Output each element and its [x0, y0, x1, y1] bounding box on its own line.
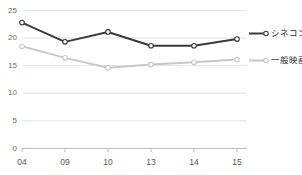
legend: シネコン 一般映画館 — [249, 28, 302, 65]
data-point — [192, 43, 197, 48]
x-label-09: 09 — [60, 157, 70, 167]
legend-marker-cinecon — [264, 31, 268, 35]
data-point — [235, 57, 240, 62]
data-point — [20, 44, 25, 49]
data-point — [20, 20, 25, 25]
legend-label-cinecon: シネコン — [271, 28, 302, 38]
series-general-theater — [20, 44, 240, 70]
data-point — [149, 62, 154, 67]
legend-item-general-theater: 一般映画館 — [249, 55, 302, 65]
x-label-10: 10 — [103, 157, 113, 167]
legend-item-cinecon: シネコン — [249, 28, 302, 38]
series-cinecon — [20, 20, 240, 48]
y-axis-labels: 25 20 15 10 5 0 — [8, 6, 17, 153]
x-label-14: 14 — [189, 157, 199, 167]
x-label-13: 13 — [146, 157, 156, 167]
data-point — [63, 56, 68, 61]
x-axis-labels: 04 09 10 13 14 15 — [17, 157, 242, 167]
line-chart: 25 20 15 10 5 0 04 09 10 13 14 15 シネコン — [0, 0, 302, 175]
x-label-04: 04 — [17, 157, 27, 167]
data-point — [106, 30, 111, 35]
y-label-0: 0 — [13, 144, 18, 153]
x-label-15: 15 — [232, 157, 242, 167]
y-label-25: 25 — [8, 6, 17, 15]
series-line-1 — [22, 46, 237, 68]
data-point — [63, 40, 68, 45]
data-point — [192, 60, 197, 65]
data-point — [235, 37, 240, 42]
x-tick-marks — [22, 148, 237, 152]
y-label-5: 5 — [13, 116, 18, 125]
legend-label-general-theater: 一般映画館 — [271, 55, 302, 65]
legend-marker-general-theater — [264, 58, 268, 62]
series-line-0 — [22, 23, 237, 46]
data-point — [106, 66, 111, 71]
y-label-20: 20 — [8, 33, 17, 42]
y-label-10: 10 — [8, 88, 17, 97]
data-point — [149, 43, 154, 48]
y-label-15: 15 — [8, 61, 17, 70]
series-layer — [20, 20, 240, 70]
chart-canvas: 25 20 15 10 5 0 04 09 10 13 14 15 シネコン — [0, 0, 302, 175]
